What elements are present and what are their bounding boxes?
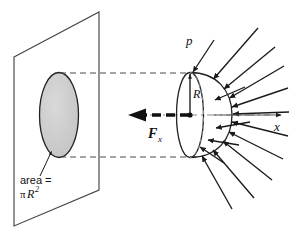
force-label: F: [147, 126, 158, 141]
physics-figure: p R F x x area = π R 2: [0, 0, 299, 239]
pressure-label: p: [185, 33, 193, 48]
projected-area-ellipse: [40, 73, 79, 158]
area-label-R: R: [26, 187, 35, 201]
area-label-pi: π: [20, 188, 26, 200]
force-origin-dot: [187, 112, 192, 117]
figure-canvas: p R F x x area = π R 2: [0, 0, 299, 239]
force-label-subscript: x: [157, 134, 162, 144]
area-label-exponent: 2: [35, 185, 39, 194]
radius-label: R: [192, 87, 201, 101]
x-axis-label: x: [273, 119, 280, 134]
